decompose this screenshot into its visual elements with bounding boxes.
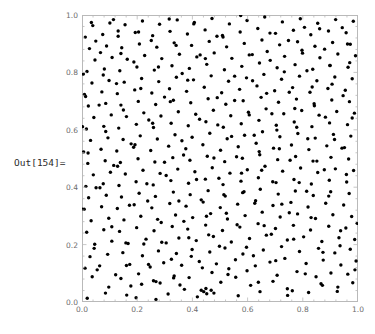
- data-point: [125, 115, 128, 118]
- data-point: [298, 250, 301, 253]
- data-point: [152, 279, 155, 282]
- data-point: [195, 178, 198, 181]
- data-point: [355, 222, 358, 225]
- data-point: [137, 100, 140, 103]
- data-point: [263, 15, 266, 18]
- data-point: [286, 238, 289, 241]
- data-point: [170, 258, 173, 261]
- data-point: [344, 88, 347, 91]
- data-point: [277, 192, 280, 195]
- data-point: [219, 206, 222, 209]
- data-point: [242, 190, 245, 193]
- data-point: [116, 92, 119, 95]
- data-point: [348, 61, 351, 64]
- data-point: [342, 203, 345, 206]
- data-point: [256, 222, 259, 225]
- data-point: [154, 195, 157, 198]
- scatter-plot[interactable]: 0.00.20.40.60.81.0 0.00.20.40.60.81.0: [82, 15, 358, 302]
- data-point: [329, 271, 332, 274]
- data-point: [118, 230, 121, 233]
- data-point: [260, 169, 263, 172]
- data-point: [230, 57, 233, 60]
- data-point: [119, 277, 122, 280]
- data-point: [306, 205, 309, 208]
- scatter-points-layer: [82, 15, 358, 302]
- data-point: [158, 172, 161, 175]
- data-point: [220, 91, 223, 94]
- data-point: [313, 104, 316, 107]
- data-point: [328, 179, 331, 182]
- data-point: [339, 229, 342, 232]
- data-point: [192, 22, 195, 25]
- data-point: [201, 266, 204, 269]
- data-point: [233, 74, 236, 77]
- data-point: [282, 112, 285, 115]
- data-point: [125, 264, 128, 267]
- data-point: [187, 276, 190, 279]
- data-point: [150, 39, 153, 42]
- data-point: [295, 126, 298, 129]
- data-point: [141, 19, 144, 22]
- data-point: [328, 121, 331, 124]
- data-point: [132, 60, 135, 63]
- data-point: [206, 189, 209, 192]
- data-point: [274, 259, 277, 262]
- data-point: [309, 216, 312, 219]
- data-point: [314, 275, 317, 278]
- data-point: [248, 113, 251, 116]
- data-point: [135, 226, 138, 229]
- data-point: [299, 17, 302, 20]
- data-point: [294, 155, 297, 158]
- data-point: [251, 79, 254, 82]
- data-point: [345, 173, 348, 176]
- data-point: [312, 194, 315, 197]
- data-point: [90, 81, 93, 84]
- data-point: [134, 180, 137, 183]
- data-point: [147, 263, 150, 266]
- data-point: [304, 262, 307, 265]
- data-point: [275, 66, 278, 69]
- data-point: [245, 19, 248, 22]
- data-point: [114, 273, 117, 276]
- data-point: [237, 294, 240, 297]
- data-point: [240, 171, 243, 174]
- data-point: [198, 117, 201, 120]
- data-point: [293, 107, 296, 110]
- data-point: [238, 30, 241, 33]
- data-point: [329, 156, 332, 159]
- data-point: [189, 101, 192, 104]
- data-point: [158, 281, 161, 284]
- data-point: [228, 171, 231, 174]
- data-point: [193, 170, 196, 173]
- data-point: [212, 235, 215, 238]
- y-tick-label: 1.0: [58, 11, 78, 20]
- data-point: [262, 73, 265, 76]
- data-point: [323, 47, 326, 50]
- data-point: [347, 157, 350, 160]
- data-point: [98, 186, 101, 189]
- data-point: [93, 58, 96, 61]
- data-point: [318, 56, 321, 59]
- data-point: [128, 263, 131, 266]
- data-point: [221, 183, 224, 186]
- data-point: [182, 153, 185, 156]
- data-point: [106, 253, 109, 256]
- data-point: [157, 65, 160, 68]
- data-point: [315, 79, 318, 82]
- data-point: [309, 228, 312, 231]
- data-point: [177, 236, 180, 239]
- data-point: [305, 69, 308, 72]
- data-point: [149, 149, 152, 152]
- data-point: [201, 143, 204, 146]
- data-point: [257, 176, 260, 179]
- data-point: [234, 258, 237, 261]
- data-point: [337, 236, 340, 239]
- data-point: [261, 130, 264, 133]
- data-point: [129, 142, 132, 145]
- data-point: [223, 160, 226, 163]
- data-point: [270, 112, 273, 115]
- data-point: [89, 139, 92, 142]
- data-point: [240, 122, 243, 125]
- data-point: [241, 99, 244, 102]
- data-point: [270, 233, 273, 236]
